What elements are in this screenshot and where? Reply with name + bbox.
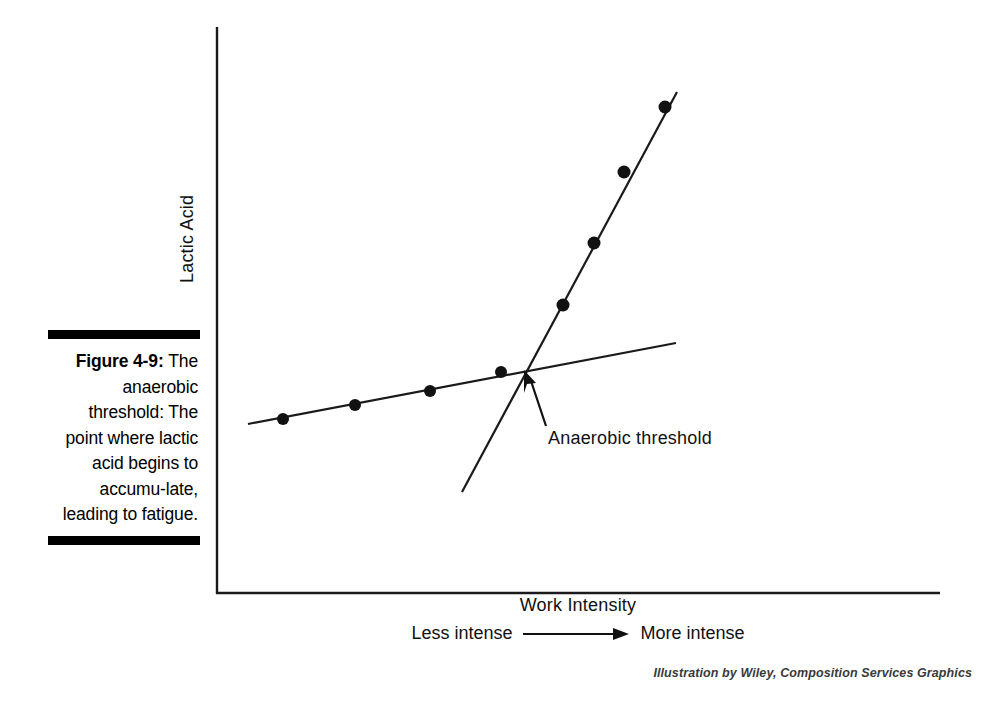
data-point [424,385,436,397]
data-point [659,101,672,114]
plot-area: Lactic Acid Work Intensity Less intense … [0,0,990,709]
arrow-right-icon [523,627,631,641]
x-scale-high-label: More intense [641,623,745,644]
data-point [495,366,507,378]
data-point [349,399,361,411]
data-point [557,299,570,312]
x-scale-low-label: Less intense [411,623,512,644]
annotation-anaerobic-threshold: Anaerobic threshold [548,428,712,449]
y-axis-title: Lactic Acid [177,123,198,283]
baseline-trend-line [248,343,676,424]
data-point [277,413,289,425]
data-point [618,166,631,179]
figure-container: Figure 4-9: The anaerobic threshold: The… [0,0,990,709]
annotation-arrow-icon [524,370,546,426]
x-axis-scale: Less intense More intense [216,623,940,644]
illustration-credit: Illustration by Wiley, Composition Servi… [653,666,972,680]
data-point [588,237,601,250]
x-axis-title: Work Intensity [216,595,940,616]
